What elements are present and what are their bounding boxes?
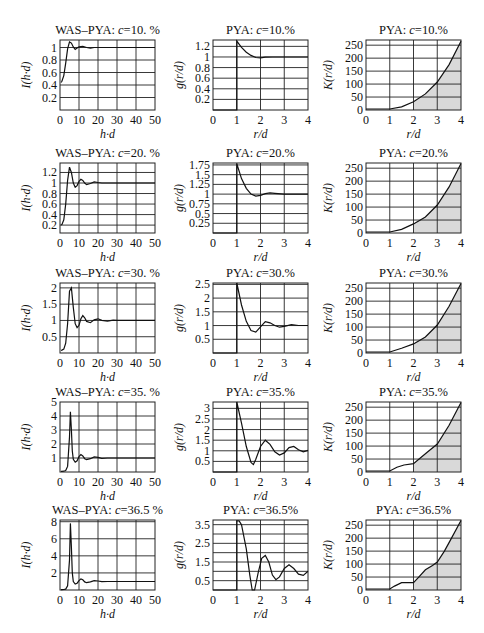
x-tick-label: 0 (210, 113, 216, 127)
y-tick-label: 2 (51, 281, 57, 295)
y-axis-label: g(r/d) (172, 541, 186, 569)
x-tick-label: 0 (57, 113, 63, 127)
x-tick-label: 0 (363, 113, 369, 127)
y-tick-label: 2.5 (195, 536, 210, 550)
y-tick-label: 1.2 (195, 39, 210, 53)
x-tick-label: 20 (92, 236, 104, 250)
x-axis-label: h·d (100, 607, 116, 621)
y-tick-label: 0.5 (42, 330, 57, 344)
chart-title: WAS–PYA: c=10. % (55, 23, 160, 37)
y-tick-label: 50 (351, 213, 363, 227)
chart-title: PYA: c=36.5% (223, 503, 298, 517)
x-tick-label: 3 (281, 356, 287, 370)
y-tick-label: 200 (345, 294, 363, 308)
y-tick-label: 150 (345, 544, 363, 558)
x-tick-label: 10 (73, 475, 85, 489)
y-tick-label: 0.5 (195, 332, 210, 346)
chart-title: PYA: c=35.% (226, 385, 295, 399)
data-curve (61, 167, 155, 225)
x-tick-label: 0 (57, 356, 63, 370)
y-axis-label: I(h·d) (19, 424, 33, 452)
y-tick-label: 2 (51, 566, 57, 580)
x-tick-label: 2 (258, 356, 264, 370)
y-tick-label: 100 (345, 200, 363, 214)
x-tick-label: 1 (387, 356, 393, 370)
y-tick-label: 250 (345, 161, 363, 175)
x-tick-label: 10 (73, 593, 85, 607)
y-tick-label: 0 (357, 465, 363, 479)
chart-panel-r0-c2: PYA: c=10.%01234050100150200250r/dK(r/d) (306, 18, 471, 152)
x-tick-label: 1 (234, 236, 240, 250)
x-tick-label: 1 (234, 475, 240, 489)
x-tick-label: 1 (234, 593, 240, 607)
y-tick-label: 0.6 (42, 66, 57, 80)
y-tick-label: 50 (351, 90, 363, 104)
x-tick-label: 3 (281, 593, 287, 607)
y-tick-label: 0.2 (42, 91, 57, 105)
x-tick-label: 0 (363, 593, 369, 607)
y-tick-label: 250 (345, 38, 363, 52)
y-tick-label: 100 (345, 557, 363, 571)
y-tick-label: 5 (51, 395, 57, 409)
y-tick-label: 1.2 (42, 165, 57, 179)
x-tick-label: 20 (92, 593, 104, 607)
y-tick-label: 3.5 (195, 518, 210, 532)
y-tick-label: 1 (51, 451, 57, 465)
data-curve (61, 412, 155, 472)
data-curve (61, 288, 155, 351)
chart-panel-r4-c0: WAS–PYA: c=36.5 %010203040502468h·dI(h·d… (0, 498, 165, 632)
y-tick-label: 0 (357, 346, 363, 360)
x-tick-label: 30 (111, 356, 123, 370)
y-tick-label: 1.5 (195, 555, 210, 569)
x-axis-label: r/d (253, 607, 268, 621)
x-tick-label: 3 (281, 113, 287, 127)
chart-panel-r1-c1: PYA: c=20.%012340.250.50.7511.251.51.75r… (153, 141, 318, 275)
y-tick-label: 1 (51, 41, 57, 55)
chart-panel-r2-c0: WAS–PYA: c=30. %010203040500.511.52h·dI(… (0, 261, 165, 395)
chart-panel-r0-c0: WAS–PYA: c=10. %010203040500.20.40.60.81… (0, 18, 165, 152)
x-tick-label: 1 (387, 593, 393, 607)
y-tick-label: 100 (345, 77, 363, 91)
y-axis-label: g(r/d) (172, 61, 186, 89)
chart-title: PYA: c=36.5% (376, 503, 451, 517)
chart-title: PYA: c=10.% (379, 23, 448, 37)
x-tick-label: 2 (411, 356, 417, 370)
x-tick-label: 40 (130, 475, 142, 489)
y-tick-label: 0.4 (42, 78, 57, 92)
y-tick-label: 2 (51, 437, 57, 451)
y-tick-label: 1.5 (195, 305, 210, 319)
y-axis-label: K(r/d) (321, 540, 335, 571)
y-axis-label: g(r/d) (172, 184, 186, 212)
y-tick-label: 1.5 (42, 297, 57, 311)
y-axis-label: K(r/d) (321, 60, 335, 91)
y-tick-label: 100 (345, 320, 363, 334)
y-axis-label: K(r/d) (321, 183, 335, 214)
x-tick-label: 0 (57, 475, 63, 489)
x-tick-label: 4 (458, 356, 464, 370)
y-tick-label: 200 (345, 174, 363, 188)
chart-title: PYA: c=30.% (226, 266, 295, 280)
chart-title: PYA: c=35.% (379, 385, 448, 399)
data-curve (61, 523, 155, 589)
y-axis-label: I(h·d) (19, 185, 33, 213)
y-tick-label: 50 (351, 452, 363, 466)
y-tick-label: 3 (51, 423, 57, 437)
chart-title: PYA: c=30.% (379, 266, 448, 280)
y-tick-label: 0.5 (195, 574, 210, 588)
x-tick-label: 4 (458, 113, 464, 127)
y-tick-label: 1 (204, 319, 210, 333)
x-tick-label: 1 (387, 236, 393, 250)
x-tick-label: 3 (281, 475, 287, 489)
x-tick-label: 40 (130, 356, 142, 370)
x-tick-label: 4 (458, 236, 464, 250)
chart-title: PYA: c=20.% (379, 146, 448, 160)
chart-panel-r0-c1: PYA: c=10.%012340.20.40.60.811.2r/dg(r/d… (153, 18, 318, 152)
x-tick-label: 10 (73, 113, 85, 127)
y-tick-label: 6 (51, 532, 57, 546)
y-tick-label: 0 (357, 583, 363, 597)
x-tick-label: 2 (258, 236, 264, 250)
chart-title: PYA: c=10.% (226, 23, 295, 37)
chart-panel-r3-c2: PYA: c=35.%01234050100150200250r/dK(r/d) (306, 380, 471, 514)
chart-panel-r1-c0: WAS–PYA: c=20. %010203040500.20.40.60.81… (0, 141, 165, 275)
y-tick-label: 4 (51, 549, 57, 563)
